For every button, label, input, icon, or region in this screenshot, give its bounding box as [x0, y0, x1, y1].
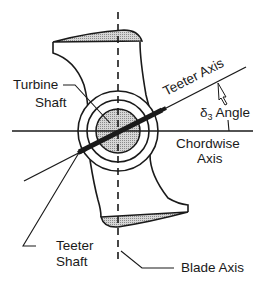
teeter-axis-label: Teeter Axis — [161, 55, 227, 98]
chordwise-axis-label-2: Axis — [197, 151, 223, 166]
top-airfoil-section — [53, 30, 142, 42]
bottom-airfoil-section — [101, 212, 188, 227]
teeter-diagram: Turbine Shaft Teeter Axis δ3Angle Chordw… — [0, 0, 268, 286]
turbine-shaft-label-2: Shaft — [35, 95, 67, 110]
turbine-shaft-label: Turbine — [13, 77, 58, 92]
teeter-shaft-label-2: Shaft — [56, 254, 88, 269]
delta3-arrow-icon — [218, 83, 227, 105]
teeter-shaft-end-right — [158, 108, 166, 112]
blade-axis-label: Blade Axis — [181, 260, 244, 275]
teeter-shaft-label: Teeter — [56, 238, 94, 253]
delta3-angle-label: δ3Angle — [200, 105, 250, 122]
chordwise-axis-label: Chordwise — [176, 136, 240, 151]
